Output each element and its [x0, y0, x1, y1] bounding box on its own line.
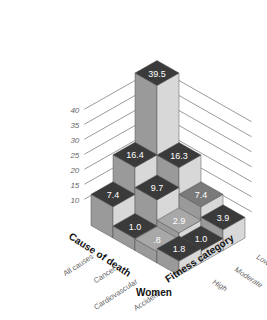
- z-tick-label: 10: [70, 196, 79, 205]
- bar-value-label: 7.4: [195, 190, 208, 200]
- z-axis-tick-labels: 10152025303540: [69, 106, 79, 205]
- bar-value-label: 7.4: [107, 190, 120, 200]
- z-tick-label: 25: [69, 151, 79, 160]
- bar-value-label: .8: [153, 235, 161, 245]
- z-tick-label: 20: [69, 166, 79, 175]
- cause-category-label: All causes: [62, 252, 96, 278]
- z-tick-label: 40: [70, 106, 79, 115]
- fitness-category-label: Low: [255, 252, 267, 267]
- bar-value-label: 1.0: [195, 234, 208, 244]
- chart-title: Women: [136, 287, 172, 298]
- bar-value-label: 16.3: [170, 151, 188, 161]
- bar-value-label: 1.0: [129, 222, 142, 232]
- fitness-category-label: High: [211, 277, 229, 293]
- bar-value-label: 2.9: [173, 216, 186, 226]
- z-tick-label: 30: [70, 136, 79, 145]
- z-tick-label: 15: [70, 181, 79, 190]
- fitness-category-label: Moderate: [233, 265, 264, 290]
- bar-chart-3d: 10152025303540 39.516.416.37.49.77.41.02…: [0, 0, 267, 320]
- z-tick-label: 35: [70, 121, 79, 130]
- bar-value-label: 3.9: [217, 213, 230, 223]
- bar-value-label: 9.7: [151, 183, 164, 193]
- bar-value-label: 16.4: [126, 150, 144, 160]
- bar-value-label: 39.5: [148, 69, 166, 79]
- bar-value-label: 1.8: [173, 244, 186, 254]
